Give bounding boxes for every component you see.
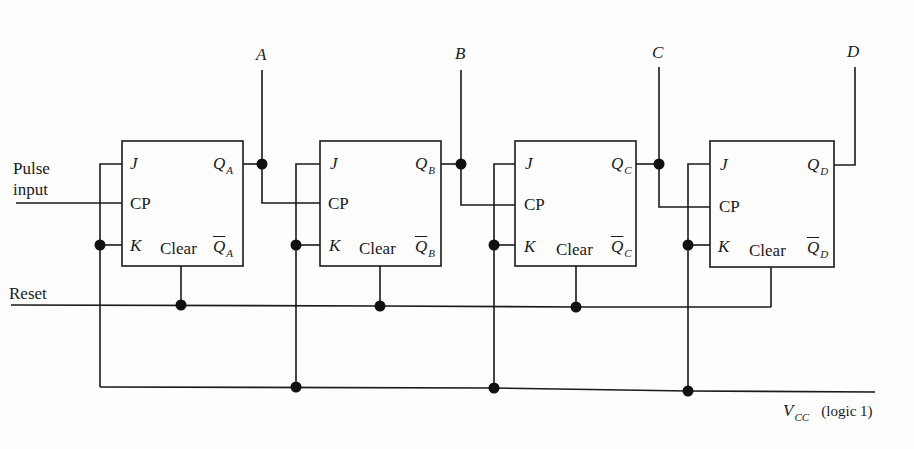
ff-a-cp: CP bbox=[130, 195, 151, 212]
ff-a-clear: Clear bbox=[160, 240, 197, 257]
reset-label: Reset bbox=[9, 285, 47, 302]
ff-d-q: QD bbox=[807, 156, 828, 173]
ff-a-qbar: QA bbox=[213, 238, 233, 255]
output-c-wire bbox=[659, 67, 710, 207]
circuit-wiring bbox=[0, 0, 914, 449]
jk-tie-d bbox=[688, 164, 710, 391]
ripple-counter-diagram: A B C D Pulse input Reset VCC (logic 1) … bbox=[0, 0, 914, 449]
ff-c-clear: Clear bbox=[556, 241, 593, 258]
ff-b-j: J bbox=[330, 155, 338, 172]
ff-c-j: J bbox=[525, 155, 533, 172]
vcc-subscript: CC bbox=[794, 411, 809, 423]
output-label-c: C bbox=[652, 44, 663, 61]
vcc-symbol: V bbox=[783, 401, 793, 420]
ff-c-q: QC bbox=[611, 155, 632, 172]
ff-d-qbar: QD bbox=[807, 239, 828, 256]
output-label-d: D bbox=[847, 43, 859, 60]
ff-d-j: J bbox=[720, 156, 728, 173]
jk-tie-c bbox=[494, 164, 515, 388]
vcc-note: (logic 1) bbox=[821, 403, 872, 419]
ff-b-k: K bbox=[329, 237, 340, 254]
output-label-b: B bbox=[455, 45, 465, 62]
ff-a-k: K bbox=[130, 237, 141, 254]
ff-a-q: QA bbox=[213, 155, 233, 172]
ff-c-k: K bbox=[524, 238, 535, 255]
ff-b-qbar: QB bbox=[415, 238, 435, 255]
ff-a-j: J bbox=[130, 155, 138, 172]
output-d-wire bbox=[834, 67, 855, 165]
pulse-input-label-2: input bbox=[13, 181, 48, 198]
ff-c-qbar: QC bbox=[611, 238, 632, 255]
ff-c-cp: CP bbox=[524, 196, 545, 213]
ff-d-clear: Clear bbox=[749, 242, 786, 259]
output-a-wire bbox=[262, 70, 320, 203]
ff-b-cp: CP bbox=[328, 195, 349, 212]
ff-d-cp: CP bbox=[719, 198, 740, 215]
jk-tie-a bbox=[100, 164, 122, 387]
ff-d-k: K bbox=[718, 238, 729, 255]
pulse-input-label: Pulse bbox=[13, 160, 50, 177]
vcc-label: VCC (logic 1) bbox=[783, 402, 873, 419]
output-label-a: A bbox=[256, 46, 266, 63]
vcc-line bbox=[100, 387, 875, 392]
output-b-wire bbox=[461, 70, 515, 205]
reset-line bbox=[11, 305, 771, 307]
ff-b-clear: Clear bbox=[359, 240, 396, 257]
ff-b-q: QB bbox=[415, 155, 435, 172]
jk-tie-b bbox=[296, 164, 320, 387]
junction-dots bbox=[95, 159, 694, 397]
